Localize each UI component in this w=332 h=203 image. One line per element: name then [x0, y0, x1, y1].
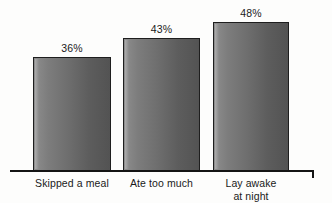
x-axis-line — [10, 170, 314, 172]
bar-value-label: 43% — [123, 23, 200, 35]
x-axis-label-ate-too-much: Ate too much — [112, 177, 211, 190]
bar-chart: 36% 43% 48% Skipped a meal Ate too much … — [0, 0, 332, 203]
x-axis-label-skipped-a-meal: Skipped a meal — [21, 177, 123, 190]
bar-ate-too-much — [123, 38, 200, 171]
bar-sheen — [35, 59, 39, 169]
x-axis-label-lay-awake-at-night: Lay awake at night — [203, 177, 299, 202]
plot-area: 36% 43% 48% Skipped a meal Ate too much … — [0, 0, 332, 203]
bar-sheen — [215, 24, 219, 169]
bar-value-label: 36% — [33, 42, 111, 54]
x-axis-end-tick — [312, 170, 314, 178]
bar-lay-awake-at-night — [213, 22, 289, 171]
bar-sheen — [125, 40, 129, 169]
bar-skipped-a-meal — [33, 57, 111, 171]
bar-value-label: 48% — [213, 7, 289, 19]
